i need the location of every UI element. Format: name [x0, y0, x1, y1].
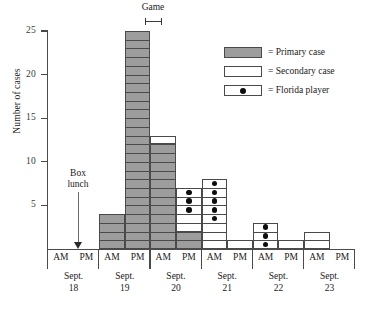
y-tick-5 — [41, 205, 47, 206]
bar-sept-21-pm — [227, 240, 253, 249]
bar-unit-divider — [125, 214, 151, 215]
x-day-label-23: Sept.23 — [304, 271, 355, 294]
florida-player-dot — [186, 198, 192, 204]
bar-unit-divider — [99, 240, 125, 241]
bar-sept-19-am — [99, 214, 125, 249]
day-number: 19 — [120, 283, 130, 293]
day-number: 22 — [274, 283, 284, 293]
bar-unit-divider — [125, 179, 151, 180]
bar-unit-divider — [202, 223, 228, 224]
bar-unit-divider — [150, 171, 176, 172]
x-day-label-19: Sept.19 — [99, 271, 150, 294]
bar-unit-divider — [125, 144, 151, 145]
bar-unit-divider — [202, 214, 228, 215]
x-label-22-am: AM — [253, 252, 279, 263]
x-day-label-18: Sept.18 — [48, 271, 99, 294]
bar-unit-divider — [150, 188, 176, 189]
day-month: Sept. — [218, 271, 237, 281]
bar-unit-divider — [125, 240, 151, 241]
x-label-21-pm: PM — [227, 252, 253, 263]
x-day-label-20: Sept.20 — [150, 271, 201, 294]
bar-unit-divider — [150, 214, 176, 215]
legend-swatch-player — [224, 85, 262, 96]
y-tick-label-5: 5 — [10, 200, 36, 210]
bar-sept-19-pm — [125, 31, 151, 249]
bar-unit-divider — [125, 101, 151, 102]
bar-unit-divider — [150, 179, 176, 180]
bar-unit-divider — [125, 162, 151, 163]
florida-player-dot — [212, 207, 218, 213]
bar-sept-20-pm — [176, 188, 202, 249]
florida-player-dot — [186, 207, 192, 213]
florida-player-dot-icon — [240, 88, 246, 94]
y-tick-10 — [41, 161, 47, 162]
legend-label: = Secondary case — [268, 64, 335, 78]
day-number: 20 — [171, 283, 181, 293]
epidemic-curve-chart: Number of cases 510152025 AMPMSept.18AMP… — [0, 0, 373, 310]
legend-label: = Primary case — [268, 45, 325, 59]
y-tick-label-15: 15 — [10, 113, 36, 123]
bar-segment-secondary — [227, 240, 253, 249]
bar-unit-divider — [125, 75, 151, 76]
day-separator — [149, 249, 150, 269]
day-month: Sept. — [115, 271, 134, 281]
bar-sept-22-am — [253, 223, 279, 249]
bar-unit-divider — [99, 223, 125, 224]
x-label-23-pm: PM — [330, 252, 356, 263]
bar-segment-secondary — [150, 136, 176, 145]
bar-unit-divider — [150, 162, 176, 163]
y-tick-label-10: 10 — [10, 157, 36, 167]
legend-label: = Florida player — [268, 83, 329, 97]
box-lunch-annotation: Box lunch — [50, 168, 106, 190]
bar-unit-divider — [125, 118, 151, 119]
box-lunch-line1: Box — [70, 168, 86, 178]
day-separator — [303, 249, 304, 269]
bar-unit-divider — [125, 92, 151, 93]
day-number: 23 — [325, 283, 335, 293]
y-tick-label-25: 25 — [10, 26, 36, 36]
y-tick-25 — [41, 30, 47, 31]
y-tick-label-20: 20 — [10, 70, 36, 80]
day-separator — [252, 249, 253, 269]
day-separator — [98, 249, 99, 269]
bar-unit-divider — [125, 83, 151, 84]
day-separator — [354, 249, 355, 269]
bar-unit-divider — [202, 232, 228, 233]
legend-swatch-primary — [224, 47, 262, 58]
x-day-label-22: Sept.22 — [253, 271, 304, 294]
bar-unit-divider — [125, 197, 151, 198]
day-month: Sept. — [64, 271, 83, 281]
x-label-23-am: AM — [304, 252, 330, 263]
bar-unit-divider — [125, 109, 151, 110]
bar-unit-divider — [125, 48, 151, 49]
x-label-22-pm: PM — [278, 252, 304, 263]
x-label-20-am: AM — [150, 252, 176, 263]
bar-unit-divider — [304, 240, 330, 241]
bar-unit-divider — [125, 223, 151, 224]
bar-unit-divider — [176, 240, 202, 241]
bar-unit-divider — [125, 205, 151, 206]
box-lunch-line2: lunch — [67, 179, 88, 189]
legend-swatch-secondary — [224, 66, 262, 77]
bar-unit-divider — [125, 127, 151, 128]
bar-sept-22-pm — [278, 240, 304, 249]
day-number: 18 — [69, 283, 79, 293]
x-label-21-am: AM — [202, 252, 228, 263]
florida-player-dot — [212, 198, 218, 204]
x-label-20-pm: PM — [176, 252, 202, 263]
day-month: Sept. — [166, 271, 185, 281]
game-annotation: Game — [122, 2, 184, 13]
x-label-19-am: AM — [99, 252, 125, 263]
day-month: Sept. — [320, 271, 339, 281]
bar-unit-divider — [125, 66, 151, 67]
bar-segment-secondary — [278, 240, 304, 249]
bar-unit-divider — [125, 40, 151, 41]
bar-unit-divider — [150, 240, 176, 241]
bar-segment-primary — [125, 31, 151, 249]
bar-unit-divider — [125, 232, 151, 233]
x-label-18-pm: PM — [74, 252, 100, 263]
bar-sept-21-am — [202, 179, 228, 249]
bar-unit-divider — [125, 57, 151, 58]
y-tick-20 — [41, 74, 47, 75]
x-label-18-am: AM — [48, 252, 74, 263]
